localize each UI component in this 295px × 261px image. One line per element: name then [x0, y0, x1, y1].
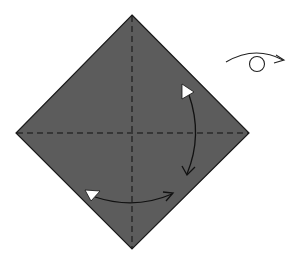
- origami-diagram: [0, 0, 295, 261]
- turn-over-icon: [226, 53, 284, 72]
